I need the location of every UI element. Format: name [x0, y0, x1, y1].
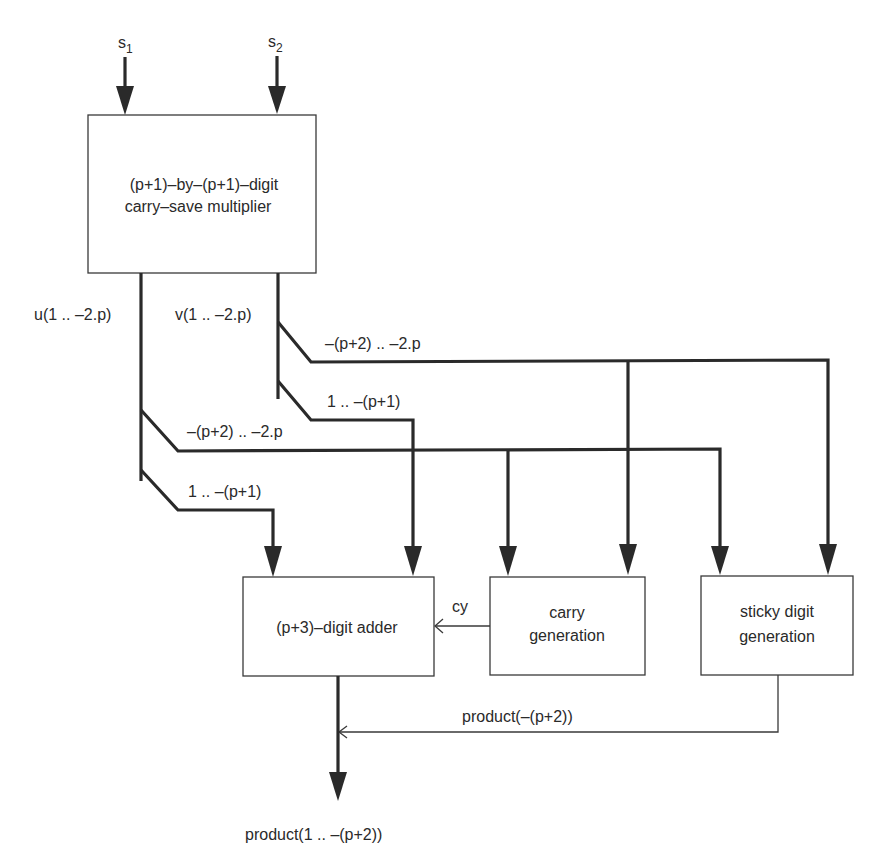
multiplier-block: (p+1)–by–(p+1)–digit carry–save multipli… [88, 115, 316, 273]
product-output-label: product(1 .. –(p+2)) [245, 826, 382, 843]
multiplier-label-line1: (p+1)–by–(p+1)–digit [130, 176, 279, 193]
sticky-generation-block: sticky digit generation [701, 576, 853, 675]
arrowhead-icon [711, 546, 729, 575]
input-s1-label: s1 [118, 34, 133, 56]
adder-block: (p+3)–digit adder [243, 577, 434, 676]
carry-signal-label: cy [452, 598, 468, 615]
carry-generation-label-line2: generation [529, 627, 605, 644]
u-high-branch-label: 1 .. –(p+1) [188, 483, 261, 500]
multiplier-label-line2: carry–save multiplier [125, 198, 272, 215]
arrowhead-icon [619, 544, 637, 575]
carry-signal: cy [435, 598, 490, 633]
v-high-branch: 1 .. –(p+1) [278, 381, 422, 576]
u-high-branch: 1 .. –(p+1) [141, 470, 282, 577]
arrowhead-icon [264, 546, 282, 577]
arrowhead-icon [819, 544, 837, 575]
sticky-output-signal: product(–(p+2)) [339, 675, 778, 738]
svg-text:s2: s2 [268, 33, 283, 55]
v-bus-label: v(1 .. –2.p) [175, 306, 251, 323]
v-high-branch-label: 1 .. –(p+1) [327, 393, 400, 410]
svg-text:s1: s1 [118, 34, 133, 56]
sticky-generation-label-line1: sticky digit [740, 603, 814, 620]
multiplier-datapath-diagram: s1 s2 (p+1)–by–(p+1)–digit carry–save mu… [0, 0, 884, 866]
input-s2-arrow [268, 56, 286, 114]
carry-generation-block: carry generation [490, 577, 645, 675]
input-s2-label: s2 [268, 33, 283, 55]
carry-generation-label-line1: carry [549, 604, 585, 621]
arrowhead-icon [499, 546, 517, 576]
product-output: product(1 .. –(p+2)) [245, 676, 382, 843]
sticky-output-label: product(–(p+2)) [462, 708, 573, 725]
arrowhead-icon [404, 546, 422, 576]
arrowhead-icon [268, 86, 286, 114]
arrowhead-icon [329, 772, 347, 801]
arrowhead-icon [116, 86, 134, 115]
input-s1-arrow [116, 57, 134, 115]
v-low-branch-label: –(p+2) .. –2.p [325, 335, 421, 352]
u-bus-label: u(1 .. –2.p) [34, 306, 111, 323]
adder-label: (p+3)–digit adder [276, 619, 398, 636]
sticky-generation-label-line2: generation [739, 628, 815, 645]
u-low-branch-label: –(p+2) .. –2.p [187, 423, 283, 440]
v-bus: v(1 .. –2.p) [175, 273, 278, 399]
u-bus: u(1 .. –2.p) [34, 273, 141, 481]
